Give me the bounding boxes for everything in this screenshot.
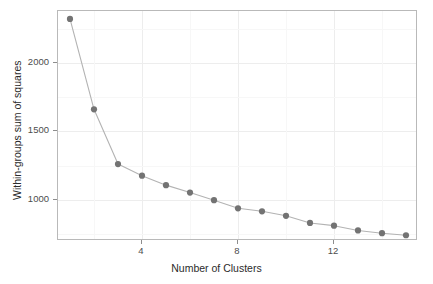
data-point bbox=[211, 197, 217, 203]
data-point bbox=[259, 208, 265, 214]
series-line bbox=[70, 19, 406, 235]
data-point bbox=[307, 220, 313, 226]
y-tick-label: 1500 bbox=[28, 126, 49, 136]
x-tick-mark bbox=[333, 240, 334, 244]
data-point bbox=[139, 173, 145, 179]
x-tick-mark bbox=[237, 240, 238, 244]
elbow-plot-figure: 100015002000 4812 Number of Clusters Wit… bbox=[0, 0, 433, 284]
x-tick-label: 12 bbox=[328, 246, 339, 256]
data-point bbox=[67, 16, 73, 22]
data-point bbox=[115, 161, 121, 167]
y-tick-label: 1000 bbox=[28, 194, 49, 204]
y-tick-mark bbox=[53, 62, 57, 63]
data-point bbox=[379, 230, 385, 236]
x-tick-label: 8 bbox=[234, 246, 239, 256]
x-tick-label: 4 bbox=[138, 246, 143, 256]
data-point bbox=[235, 205, 241, 211]
data-point bbox=[355, 227, 361, 233]
x-axis-title: Number of Clusters bbox=[0, 263, 433, 274]
y-tick-mark bbox=[53, 199, 57, 200]
data-point bbox=[187, 189, 193, 195]
y-tick-label: 2000 bbox=[28, 57, 49, 67]
data-point bbox=[283, 213, 289, 219]
y-axis-title: Within-groups sum of squares bbox=[12, 30, 23, 230]
series-points bbox=[67, 16, 409, 239]
data-point bbox=[163, 182, 169, 188]
data-point bbox=[91, 106, 97, 112]
plot-panel bbox=[57, 10, 417, 240]
data-point bbox=[331, 223, 337, 229]
x-tick-mark bbox=[141, 240, 142, 244]
y-tick-mark bbox=[53, 130, 57, 131]
data-point bbox=[403, 232, 409, 238]
series-layer bbox=[58, 11, 417, 240]
